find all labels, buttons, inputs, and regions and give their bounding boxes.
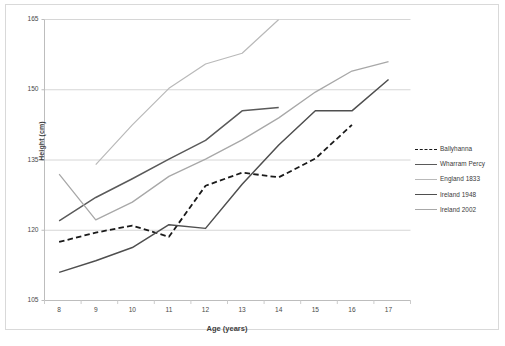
x-axis-title: Age (years) (44, 324, 410, 333)
x-tick-label: 13 (231, 306, 253, 313)
x-tick-label: 8 (48, 306, 70, 313)
y-tick-label: 120 (11, 226, 39, 233)
legend-line-swatch (415, 144, 437, 154)
x-tick-label: 10 (121, 306, 143, 313)
series-line-1 (59, 108, 279, 221)
y-tick-label: 105 (11, 296, 39, 303)
x-tick-label: 14 (268, 306, 290, 313)
series-line-0 (59, 125, 352, 242)
x-tick-label: 12 (195, 306, 217, 313)
y-axis-title: Height (cm) (38, 101, 45, 181)
series-line-4 (59, 62, 388, 220)
y-tick-label: 135 (11, 156, 39, 163)
legend-line-swatch (415, 189, 437, 199)
legend-label: Ballyhanna (437, 145, 472, 152)
legend-item: Ballyhanna (415, 141, 485, 156)
legend-item: Ireland 1948 (415, 187, 485, 202)
series-line-2 (96, 20, 279, 165)
legend-line-swatch (415, 204, 437, 214)
legend-line-swatch (415, 174, 437, 184)
legend-line-swatch (415, 159, 437, 169)
y-tick-label: 165 (11, 15, 39, 22)
x-tick-label: 11 (158, 306, 180, 313)
chart-figure: Height (cm) Age (years) 105120135150165 … (0, 0, 505, 346)
legend-label: Ireland 2002 (437, 206, 476, 213)
y-tick-label: 150 (11, 85, 39, 92)
x-tick-label: 9 (85, 306, 107, 313)
x-tick-label: 15 (304, 306, 326, 313)
legend-item: Ireland 2002 (415, 202, 485, 217)
legend-label: Wharram Percy (437, 160, 485, 167)
x-tick-label: 17 (378, 306, 400, 313)
legend-item: England 1833 (415, 171, 485, 186)
legend-item: Wharram Percy (415, 156, 485, 171)
legend-label: Ireland 1948 (437, 191, 476, 198)
x-tick-label: 16 (341, 306, 363, 313)
chart-legend: BallyhannaWharram PercyEngland 1833Irela… (415, 141, 485, 217)
legend-label: England 1833 (437, 175, 480, 182)
series-line-3 (59, 79, 388, 272)
